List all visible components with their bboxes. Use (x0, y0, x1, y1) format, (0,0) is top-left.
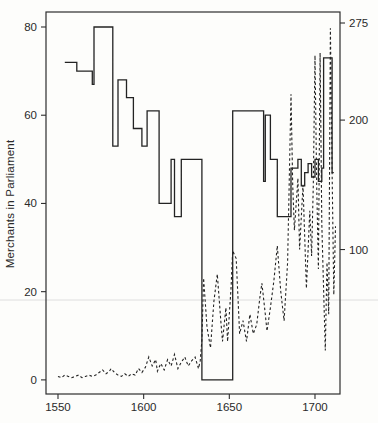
y-left-tick-label: 40 (24, 197, 37, 209)
figure: 0204060801002002751550160016501700 Merch… (0, 0, 378, 423)
y-right-tick-label: 100 (349, 244, 368, 256)
x-tick-label: 1550 (45, 401, 71, 413)
x-tick-label: 1650 (217, 401, 243, 413)
secondary-series-line (58, 28, 336, 378)
chart-canvas: 0204060801002002751550160016501700 (0, 0, 378, 423)
y-right-tick-label: 200 (349, 114, 368, 126)
y-axis-title: Merchants in Parliament (4, 140, 16, 269)
y-left-tick-label: 80 (24, 21, 37, 33)
y-left-tick-label: 20 (24, 286, 37, 298)
x-tick-label: 1700 (302, 401, 328, 413)
y-left-tick-label: 60 (24, 109, 37, 121)
plot-frame (46, 12, 340, 394)
y-left-tick-label: 0 (31, 374, 37, 386)
x-tick-label: 1600 (131, 401, 157, 413)
y-right-tick-label: 275 (349, 17, 368, 29)
